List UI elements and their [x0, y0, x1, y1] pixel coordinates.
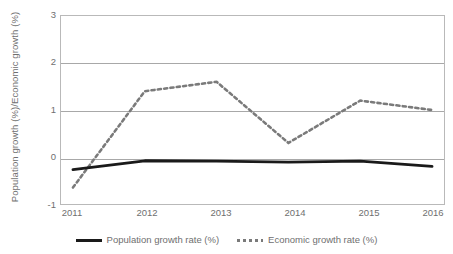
series-lines	[61, 16, 444, 204]
y-axis-tick-labels: 3 2 1 0 -1	[28, 0, 56, 254]
chart-legend: Population growth rate (%) Economic grow…	[0, 230, 453, 250]
x-axis-tick-labels: 2011 2012 2013 2014 2015 2016	[60, 207, 445, 223]
population-growth-line	[73, 161, 432, 170]
legend-label-economic: Economic growth rate (%)	[268, 234, 377, 246]
legend-label-population: Population growth rate (%)	[107, 234, 219, 246]
x-tick-label-2016: 2016	[422, 207, 443, 219]
economic-growth-line	[73, 82, 432, 188]
x-tick-label-2014: 2014	[284, 207, 305, 219]
line-chart: Population growth (%)/Economic growth (%…	[0, 0, 453, 254]
solid-line-swatch-icon	[76, 239, 102, 242]
dotted-line-swatch-icon	[237, 239, 263, 242]
legend-entry-economic: Economic growth rate (%)	[237, 234, 377, 246]
y-tick-label-neg1: -1	[32, 200, 56, 210]
legend-entry-population: Population growth rate (%)	[76, 234, 219, 246]
y-tick-label-3: 3	[32, 10, 56, 20]
x-tick-label-2011: 2011	[62, 207, 82, 219]
plot-area	[60, 15, 445, 205]
y-axis-title: Population growth (%)/Economic growth (%…	[6, 2, 24, 212]
x-tick-label-2013: 2013	[210, 207, 231, 219]
x-tick-label-2015: 2015	[358, 207, 379, 219]
y-tick-label-1: 1	[32, 105, 56, 115]
y-tick-label-2: 2	[32, 57, 56, 67]
x-tick-label-2012: 2012	[136, 207, 157, 219]
y-tick-label-0: 0	[32, 152, 56, 162]
